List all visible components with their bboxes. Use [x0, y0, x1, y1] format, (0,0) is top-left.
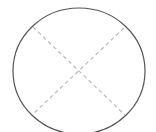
circle-outline	[13, 8, 145, 132]
crossed-circle-diagram	[0, 0, 156, 132]
